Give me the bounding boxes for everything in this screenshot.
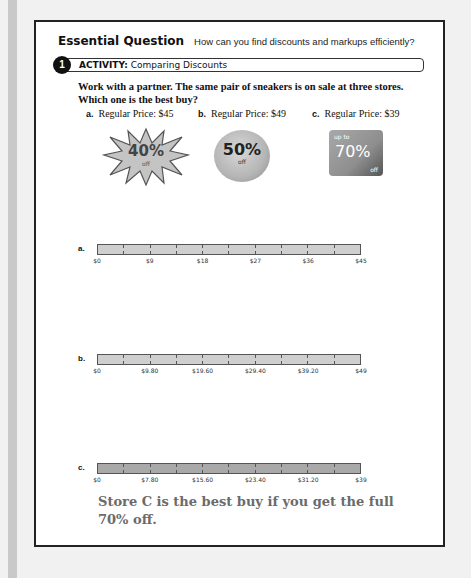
bar-model bbox=[97, 354, 361, 365]
option-label: Regular Price: $45 bbox=[99, 108, 174, 119]
tick-label: $9.80 bbox=[141, 367, 158, 374]
badge-off: off bbox=[102, 160, 190, 167]
percent-bar-a: a. $0 $9 $18 $27 $36 $45 bbox=[78, 244, 408, 284]
activity-label-bold: ACTIVITY: bbox=[79, 60, 128, 70]
option-a: a.Regular Price: $45 bbox=[86, 108, 174, 119]
square-badge-icon: up to 70% off bbox=[329, 130, 383, 176]
bar-model bbox=[97, 244, 361, 255]
bar-letter: c. bbox=[78, 463, 85, 472]
essential-question-text: How can you find discounts and markups e… bbox=[194, 36, 415, 47]
bar-tick-labels: $0 $7.80 $15.60 $23.40 $31.20 $39 bbox=[97, 476, 361, 486]
tick-label: $0 bbox=[93, 257, 101, 264]
tick-label: $15.60 bbox=[192, 476, 213, 483]
tick-label: $0 bbox=[93, 476, 101, 483]
bar-tick-labels: $0 $9.80 $19.60 $29.40 $39.20 $49 bbox=[97, 367, 361, 377]
badge-off: off bbox=[214, 158, 270, 165]
essential-question-title: Essential Question bbox=[58, 34, 184, 48]
tick-label: $27 bbox=[250, 257, 261, 264]
bar-letter: b. bbox=[78, 354, 85, 363]
bar-letter: a. bbox=[78, 244, 85, 253]
activity-number-badge: 1 bbox=[53, 56, 71, 74]
tick-label: $19.60 bbox=[192, 367, 213, 374]
tick-label: $49 bbox=[355, 367, 366, 374]
option-c: c.Regular Price: $39 bbox=[312, 108, 400, 119]
percent-bar-b: b. $0 $9.80 $19.60 $29.40 $39.20 $49 bbox=[78, 354, 408, 394]
activity-header: 1 ACTIVITY: Comparing Discounts bbox=[58, 58, 424, 72]
circle-badge-icon: 50% off bbox=[214, 130, 270, 182]
bar-model bbox=[97, 463, 361, 474]
activity-box: Essential Question How can you find disc… bbox=[34, 20, 445, 547]
option-letter: a. bbox=[86, 109, 94, 119]
tick-label: $39.20 bbox=[298, 367, 319, 374]
essential-question: Essential Question How can you find disc… bbox=[58, 34, 415, 48]
tick-label: $7.80 bbox=[141, 476, 158, 483]
activity-label: ACTIVITY: Comparing Discounts bbox=[79, 59, 227, 71]
option-letter: b. bbox=[198, 109, 206, 119]
badge-percent: 40% bbox=[102, 143, 190, 159]
tick-label: $18 bbox=[197, 257, 208, 264]
tick-label: $9 bbox=[146, 257, 154, 264]
option-letter: c. bbox=[312, 109, 320, 119]
option-label: Regular Price: $49 bbox=[211, 108, 286, 119]
tick-label: $39 bbox=[355, 476, 366, 483]
badge-off: off bbox=[370, 166, 378, 173]
page-edge-stripe bbox=[8, 0, 17, 578]
option-b: b.Regular Price: $49 bbox=[198, 108, 286, 119]
tick-label: $31.20 bbox=[298, 476, 319, 483]
starburst-badge-icon: 40% off bbox=[102, 127, 190, 187]
bar-tick-labels: $0 $9 $18 $27 $36 $45 bbox=[97, 257, 361, 267]
tick-label: $36 bbox=[302, 257, 313, 264]
answer-text: Store C is the best buy if you get the f… bbox=[98, 493, 418, 529]
badge-percent: 50% bbox=[214, 142, 270, 158]
activity-prompt: Work with a partner. The same pair of sn… bbox=[78, 80, 408, 106]
badge-up-to: up to bbox=[334, 133, 350, 140]
tick-label: $29.40 bbox=[245, 367, 266, 374]
activity-title: Comparing Discounts bbox=[131, 60, 227, 70]
option-label: Regular Price: $39 bbox=[325, 108, 400, 119]
tick-label: $23.40 bbox=[245, 476, 266, 483]
badge-percent: 70% bbox=[335, 142, 371, 161]
tick-label: $0 bbox=[93, 367, 101, 374]
tick-label: $45 bbox=[355, 257, 366, 264]
